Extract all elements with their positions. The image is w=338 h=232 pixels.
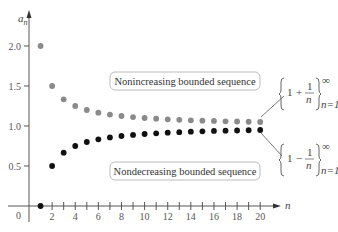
point-upper [107, 112, 113, 118]
x-tick-label: 14 [186, 211, 196, 222]
y-tick-label: 1.5 [9, 81, 22, 92]
x-tick-label: 8 [119, 211, 124, 222]
point-upper [176, 117, 182, 123]
svg-text:1: 1 [307, 80, 313, 92]
point-lower [84, 139, 90, 145]
x-tick-label: 10 [140, 211, 150, 222]
point-upper [200, 118, 206, 124]
point-upper [95, 110, 101, 116]
point-upper [49, 83, 55, 89]
data-points [38, 43, 263, 209]
svg-text:+: + [296, 86, 302, 98]
svg-text:n: n [306, 93, 312, 105]
svg-text:n: n [306, 159, 312, 171]
svg-text:−: − [296, 152, 302, 164]
svg-text:∞: ∞ [322, 74, 330, 86]
point-upper [142, 115, 148, 121]
point-lower [246, 127, 252, 133]
point-upper [153, 116, 159, 122]
point-upper [84, 107, 90, 113]
nonincreasing-label: Nonincreasing bounded sequence [114, 76, 255, 87]
point-upper [211, 118, 217, 124]
svg-text:n=1: n=1 [321, 164, 338, 176]
y-tick-label: 1.0 [9, 121, 22, 132]
x-tick-label: 6 [96, 211, 101, 222]
point-upper [246, 119, 252, 125]
point-upper [38, 43, 44, 49]
svg-text:1: 1 [287, 86, 293, 98]
point-upper [165, 116, 171, 122]
point-lower [49, 163, 55, 169]
sequence-chart: 0.51.01.52.0 2468101214161820 an n 0 Non… [0, 0, 338, 232]
point-lower [95, 136, 101, 142]
point-upper [61, 96, 67, 102]
nondecreasing-label: Nondecreasing bounded sequence [114, 166, 257, 177]
point-lower [200, 128, 206, 134]
point-lower [142, 131, 148, 137]
y-tick-label: 0.5 [9, 161, 22, 172]
x-ticks: 2468101214161820 [50, 202, 266, 222]
y-axis [27, 10, 32, 222]
svg-text:∞: ∞ [322, 140, 330, 152]
point-upper [234, 119, 240, 125]
origin-label: 0 [16, 210, 21, 221]
y-axis-label: an [18, 12, 28, 27]
svg-text:n=1: n=1 [321, 98, 338, 110]
point-lower [61, 150, 67, 156]
point-upper [130, 114, 136, 120]
point-upper [223, 118, 229, 124]
point-upper [257, 119, 263, 125]
x-tick-label: 20 [255, 211, 265, 222]
x-tick-label: 2 [50, 211, 55, 222]
x-axis-label: n [285, 199, 291, 211]
point-lower [119, 133, 125, 139]
point-lower [176, 129, 182, 135]
y-ticks: 0.51.01.52.0 [9, 41, 30, 172]
formula-top: 1 + 1 n ∞ n=1 [279, 74, 338, 110]
x-tick-label: 12 [163, 211, 173, 222]
point-lower [211, 128, 217, 134]
point-lower [130, 132, 136, 138]
point-lower [72, 143, 78, 149]
point-lower [257, 127, 263, 133]
point-lower [188, 129, 194, 135]
formula-bottom: 1 − 1 n ∞ n=1 [279, 140, 338, 176]
x-tick-label: 4 [73, 211, 78, 222]
point-lower [153, 130, 159, 136]
point-upper [188, 117, 194, 123]
point-upper [119, 113, 125, 119]
nonincreasing-label-box: Nonincreasing bounded sequence [110, 72, 260, 90]
leader-line-bottom [261, 133, 282, 156]
x-tick-label: 18 [232, 211, 242, 222]
svg-text:1: 1 [287, 152, 293, 164]
point-lower [234, 128, 240, 134]
x-tick-label: 16 [209, 211, 219, 222]
point-upper [72, 103, 78, 109]
point-lower [223, 128, 229, 134]
point-lower [165, 130, 171, 136]
point-lower [38, 203, 44, 209]
svg-text:1: 1 [307, 146, 313, 158]
nondecreasing-label-box: Nondecreasing bounded sequence [110, 162, 260, 180]
point-lower [107, 135, 113, 141]
y-tick-label: 2.0 [9, 41, 22, 52]
